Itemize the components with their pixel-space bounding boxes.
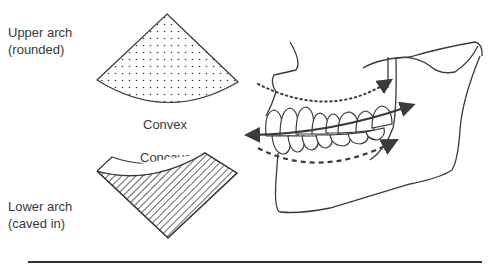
diagram-graphics xyxy=(0,0,501,264)
convex-sector-shape xyxy=(97,14,238,103)
maxilla-outline xyxy=(266,42,298,116)
jaw-curve-diagram: Upper arch (rounded) Lower arch (caved i… xyxy=(0,0,501,264)
upper-dotted-curve xyxy=(258,82,388,102)
